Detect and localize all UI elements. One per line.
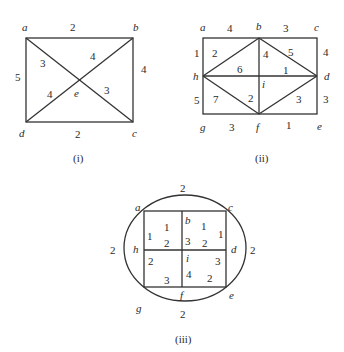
vertex-g: g: [200, 121, 206, 133]
vertex-b: b: [185, 214, 191, 226]
graph-figure: a b c d e 2 4 2 5 3 4 4 3 (i) a b c d e …: [0, 0, 344, 352]
vertex-b: b: [256, 20, 262, 32]
edge-weight-ec: 3: [104, 84, 110, 96]
edge-weight-if: 4: [186, 268, 192, 280]
edge-weight-hb: 2: [212, 47, 218, 59]
edge-weight-hg: 5: [194, 94, 200, 106]
edge-weight-bc: 3: [283, 22, 289, 34]
vertex-c: c: [132, 127, 137, 139]
edge-weight-fe: 1: [286, 119, 292, 131]
edge-weight-cd: 1: [218, 228, 224, 240]
vertex-a: a: [22, 21, 28, 33]
caption-i: (i): [73, 152, 84, 165]
edge-weight-gf: 3: [164, 274, 170, 286]
edge-weight-bi-upper: 3: [185, 235, 191, 247]
edge-weight-bi: 4: [263, 48, 269, 60]
diagram-i: a b c d e 2 4 2 5 3 4 4 3 (i): [15, 21, 147, 165]
vertex-d: d: [231, 243, 237, 255]
edge-weight-de: 3: [215, 255, 221, 267]
edge-weight-de: 4: [47, 88, 53, 100]
edge-weight-if: 2: [248, 92, 254, 104]
edge-weight-arc-right: 2: [250, 244, 256, 256]
edge-weight-hg: 2: [148, 255, 154, 267]
edge-weight-ah: 1: [194, 47, 200, 59]
vertex-i: i: [262, 78, 265, 90]
edge-weight-hf: 7: [213, 93, 219, 105]
edge-weight-ah: 1: [147, 230, 153, 242]
edge-weight-hi: 6: [237, 63, 243, 75]
edge-weight-id: 1: [283, 64, 289, 76]
edge-weight-fd: 3: [296, 93, 302, 105]
vertex-d: d: [19, 127, 25, 139]
edge-weight-ab: 1: [164, 221, 170, 233]
vertex-a: a: [135, 201, 141, 213]
edge-weight-bc: 1: [201, 220, 207, 232]
edge-weight-arc-top: 2: [180, 182, 186, 194]
vertex-e: e: [74, 87, 79, 99]
edge-weight-dc: 2: [75, 128, 81, 140]
edge-weight-gf: 3: [229, 121, 235, 133]
vertex-d: d: [324, 70, 330, 82]
vertex-g: g: [136, 302, 142, 314]
edge-weight-id-upper: 2: [202, 237, 208, 249]
vertex-a: a: [200, 21, 206, 33]
diagram-ii: a b c d e f g h i 4 3 1 4 5 3 3 1 2 4 5 …: [193, 20, 330, 165]
edge-weight-fe: 2: [207, 272, 213, 284]
edge-weight-be: 4: [90, 50, 96, 62]
vertex-e: e: [229, 289, 234, 301]
diagram-ii-edge-fd: [259, 76, 317, 114]
vertex-i: i: [186, 252, 189, 264]
vertex-h: h: [193, 70, 199, 82]
vertex-h: h: [133, 243, 139, 255]
edge-weight-arc-left: 2: [110, 244, 116, 256]
edge-weight-arc-bottom: 2: [180, 308, 186, 320]
caption-ii: (ii): [255, 152, 269, 165]
edge-weight-de: 3: [323, 93, 329, 105]
edge-weight-ab: 2: [70, 21, 76, 33]
vertex-c: c: [228, 201, 233, 213]
edge-weight-ae: 3: [40, 57, 46, 69]
edge-weight-ad: 5: [15, 71, 21, 83]
edge-weight-bc: 4: [141, 63, 147, 75]
vertex-f: f: [180, 289, 185, 301]
vertex-e: e: [317, 120, 322, 132]
edge-weight-hi-upper: 2: [164, 237, 170, 249]
vertex-b: b: [133, 21, 139, 33]
diagram-iii: a b c d e f g h i 2 2 2 2 1 1 3 2 1 1 2 …: [110, 182, 256, 346]
edge-weight-ab: 4: [227, 22, 233, 34]
edge-weight-bd: 5: [288, 46, 294, 58]
vertex-f: f: [256, 121, 261, 133]
caption-iii: (iii): [175, 333, 192, 346]
edge-weight-cd: 4: [323, 46, 329, 58]
vertex-c: c: [314, 21, 319, 33]
